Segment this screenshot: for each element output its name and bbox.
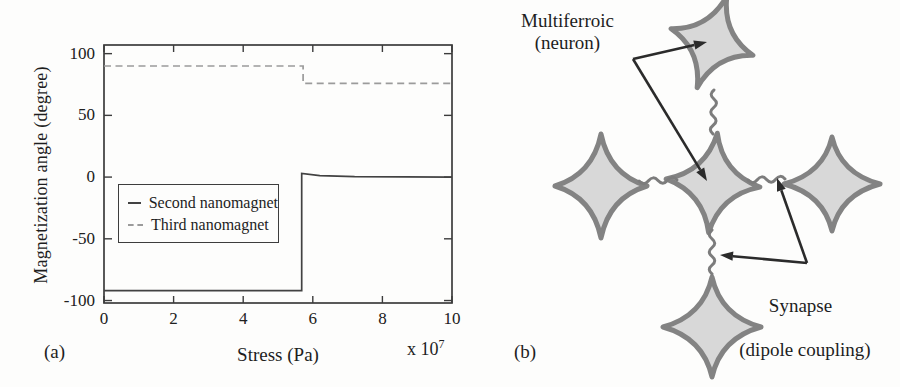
- dashed-line-sample: [128, 224, 143, 226]
- y-tick-label: 100: [70, 44, 96, 63]
- x-tick-label: 2: [169, 309, 178, 328]
- x-tick-label: 0: [100, 309, 109, 328]
- neuron-annotation-arrow-center-line: [633, 59, 700, 170]
- y-tick-label: 0: [87, 167, 96, 186]
- panel-b-letter: (b): [514, 341, 536, 363]
- neuron-diagram: [480, 0, 900, 387]
- x-tick-label: 6: [309, 309, 318, 328]
- x-tick-label: 4: [239, 309, 248, 328]
- y-tick-label: 50: [78, 105, 95, 124]
- legend-entry-third-nanomagnet: Third nanomagnet: [128, 216, 278, 233]
- multiferroic-neuron-label: Multiferroic (neuron): [495, 10, 640, 54]
- panel-a-letter: (a): [44, 341, 65, 363]
- y-axis-label: Magnetization angle (degree): [31, 45, 51, 305]
- dipole-coupling-label: (dipole coupling): [722, 339, 888, 361]
- multiferroic-label-line2: (neuron): [495, 32, 640, 54]
- legend-label: Second nanomagnet: [149, 194, 278, 211]
- synapse-spring-top-center: [710, 90, 716, 134]
- y-tick-label: -100: [64, 291, 95, 310]
- legend-entry-second-nanomagnet: Second nanomagnet: [128, 194, 278, 211]
- neuron-star-left: [555, 134, 647, 238]
- neuron-star-center: [662, 129, 764, 237]
- x-axis-multiplier: x 107: [407, 337, 445, 360]
- legend-label: Third nanomagnet: [151, 216, 269, 233]
- x-tick-label: 10: [444, 309, 461, 328]
- multiferroic-label-line1: Multiferroic: [495, 10, 640, 32]
- figure: 0246810-100-50050100 Magnetization angle…: [0, 0, 900, 387]
- synapse-annotation-arrow-bottom-head: [720, 252, 733, 261]
- synapse-annotation-arrow-bottom-line: [733, 256, 807, 263]
- neuron-star-bottom: [663, 277, 761, 377]
- neuron-star-right: [784, 137, 880, 231]
- y-tick-label: -50: [72, 229, 95, 248]
- neuron-annotation-arrow-top-line: [633, 45, 694, 59]
- synapse-label: Synapse: [748, 295, 853, 317]
- synapse-annotation-arrow-right-line: [781, 190, 807, 263]
- x-axis-label: Stress (Pa): [104, 344, 452, 366]
- solid-line-sample: [128, 202, 141, 204]
- x-tick-label: 8: [378, 309, 387, 328]
- chart-legend: Second nanomagnet Third nanomagnet: [118, 184, 279, 243]
- x-multiplier-base: x 10: [407, 339, 439, 359]
- synapse-spring-center-bottom: [709, 230, 715, 274]
- x-multiplier-exponent: 7: [439, 337, 445, 351]
- series-line-dashed: [104, 66, 452, 83]
